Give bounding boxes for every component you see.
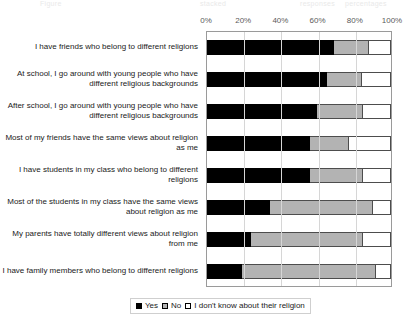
bar-segment-i-don-t-know-about-their-religion bbox=[373, 200, 391, 215]
bar-row bbox=[207, 256, 391, 288]
cutoff-text-fragment: Figure bbox=[40, 0, 62, 7]
y-category-label: After school, I go around with young peo… bbox=[0, 101, 198, 121]
y-category-label: My parents have totally different views … bbox=[0, 229, 198, 249]
stacked-bar bbox=[207, 264, 391, 279]
bar-segment-i-don-t-know-about-their-religion bbox=[363, 104, 391, 119]
x-tick-label: 100% bbox=[382, 16, 402, 25]
stacked-bar bbox=[207, 40, 391, 55]
x-tick-label: 40% bbox=[272, 16, 288, 25]
stacked-bar bbox=[207, 104, 391, 119]
bar-segment-i-don-t-know-about-their-religion bbox=[363, 232, 391, 247]
legend-swatch-dk bbox=[185, 303, 191, 309]
bar-segment-i-don-t-know-about-their-religion bbox=[363, 168, 391, 183]
bar-segment-yes bbox=[207, 72, 327, 87]
bar-row bbox=[207, 160, 391, 192]
legend-label: Yes bbox=[145, 301, 158, 311]
bar-segment-i-don-t-know-about-their-religion bbox=[376, 264, 391, 279]
stacked-bar bbox=[207, 168, 391, 183]
legend-label: No bbox=[171, 301, 181, 311]
y-category-label: I have friends who belong to different r… bbox=[0, 42, 198, 52]
bar-segment-yes bbox=[207, 136, 310, 151]
bar-segment-no bbox=[270, 200, 373, 215]
x-tick-label: 60% bbox=[310, 16, 326, 25]
bar-row bbox=[207, 224, 391, 256]
bar-segment-i-don-t-know-about-their-religion bbox=[362, 72, 391, 87]
stacked-bar bbox=[207, 136, 391, 151]
chart-legend: YesNoI don't know about their religion bbox=[130, 298, 311, 314]
x-axis-tick-labels: 0%20%40%60%80%100% bbox=[206, 16, 392, 29]
legend-label: I don't know about their religion bbox=[194, 301, 304, 311]
gridline bbox=[281, 32, 282, 286]
stacked-bar bbox=[207, 72, 391, 87]
bar-row bbox=[207, 96, 391, 128]
stacked-bar-chart: Figurestackedresponsespercentages 0%20%4… bbox=[0, 0, 409, 321]
x-tick-label: 80% bbox=[347, 16, 363, 25]
cutoff-text-strip: Figurestackedresponsespercentages bbox=[0, 0, 409, 10]
bar-segment-yes bbox=[207, 168, 310, 183]
bar-segment-no bbox=[334, 40, 369, 55]
legend-swatch-yes bbox=[136, 303, 142, 309]
y-category-label: At school, I go around with young people… bbox=[0, 69, 198, 89]
bar-segment-no bbox=[251, 232, 363, 247]
y-axis-category-labels: I have friends who belong to different r… bbox=[0, 31, 203, 287]
legend-item[interactable]: No bbox=[162, 301, 181, 311]
x-tick-label: 0% bbox=[200, 16, 212, 25]
cutoff-text-fragment: percentages bbox=[345, 0, 387, 7]
bar-segment-yes bbox=[207, 200, 270, 215]
bar-row bbox=[207, 64, 391, 96]
y-category-label: I have family members who belong to diff… bbox=[0, 266, 198, 276]
legend-item[interactable]: Yes bbox=[136, 301, 158, 311]
plot-area bbox=[206, 31, 392, 287]
bar-segment-yes bbox=[207, 40, 334, 55]
stacked-bar bbox=[207, 232, 391, 247]
cutoff-text-fragment: responses bbox=[300, 0, 335, 7]
bar-rows bbox=[207, 32, 391, 286]
gridline bbox=[319, 32, 320, 286]
gridline bbox=[356, 32, 357, 286]
y-category-label: I have students in my class who belong t… bbox=[0, 165, 198, 185]
legend-swatch-no bbox=[162, 303, 168, 309]
y-category-label: Most of my friends have the same views a… bbox=[0, 133, 198, 153]
gridline bbox=[244, 32, 245, 286]
y-category-label: Most of the students in my class have th… bbox=[0, 197, 198, 217]
bar-row bbox=[207, 32, 391, 64]
bar-segment-yes bbox=[207, 264, 242, 279]
bar-segment-yes bbox=[207, 104, 317, 119]
cutoff-text-fragment: stacked bbox=[200, 0, 226, 7]
x-tick-label: 20% bbox=[235, 16, 251, 25]
bar-segment-i-don-t-know-about-their-religion bbox=[369, 40, 391, 55]
legend-item[interactable]: I don't know about their religion bbox=[185, 301, 304, 311]
bar-row bbox=[207, 192, 391, 224]
bar-segment-no bbox=[310, 136, 349, 151]
bar-row bbox=[207, 128, 391, 160]
stacked-bar bbox=[207, 200, 391, 215]
